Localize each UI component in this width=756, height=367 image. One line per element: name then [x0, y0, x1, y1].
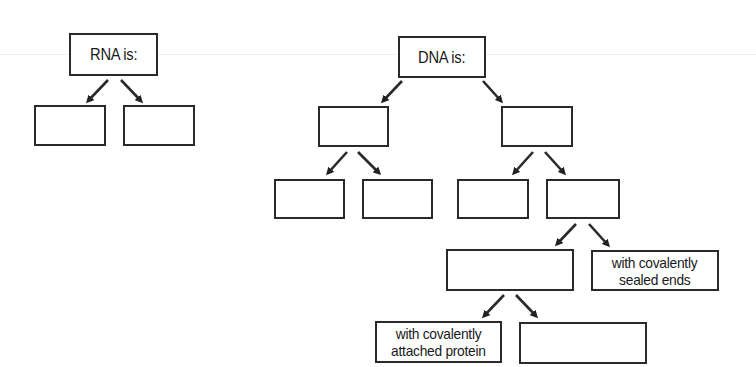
arrow-icon [545, 152, 564, 173]
arrow-icon [484, 295, 504, 316]
arrow-icon [328, 152, 347, 173]
arrow-icon [383, 81, 402, 101]
arrow-icon [514, 152, 533, 173]
arrows-layer [0, 0, 756, 367]
arrow-icon [88, 80, 108, 101]
arrow-icon [589, 224, 608, 245]
arrow-icon [358, 152, 379, 173]
arrow-icon [121, 80, 141, 101]
arrow-icon [516, 295, 536, 316]
arrow-icon [557, 224, 576, 244]
arrow-icon [483, 81, 501, 101]
